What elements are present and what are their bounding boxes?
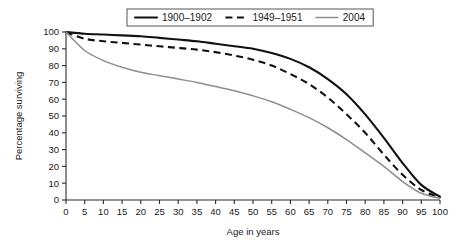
y-tick-label: 90 xyxy=(48,43,59,54)
x-tick-label: 30 xyxy=(173,206,184,217)
chart-series-lines xyxy=(66,32,440,198)
y-tick-label: 20 xyxy=(48,161,59,172)
x-tick-label: 20 xyxy=(136,206,147,217)
legend-item-label: 1949–1951 xyxy=(252,12,302,23)
x-tick-label: 65 xyxy=(304,206,315,217)
x-tick-label: 75 xyxy=(341,206,352,217)
chart-legend: 1900–19021949–19512004 xyxy=(127,9,373,26)
x-tick-label: 5 xyxy=(82,206,87,217)
y-axis-title: Percentage surviving xyxy=(13,72,24,161)
chart-axes xyxy=(66,32,440,200)
x-tick-label: 85 xyxy=(379,206,390,217)
survival-curve-chart: 1900–19021949–19512004 01020304050607080… xyxy=(0,0,465,242)
y-tick-label: 60 xyxy=(48,94,59,105)
x-tick-label: 35 xyxy=(192,206,203,217)
x-tick-label: 80 xyxy=(360,206,371,217)
y-tick-label: 0 xyxy=(54,194,59,205)
x-tick-label: 55 xyxy=(266,206,277,217)
x-tick-label: 70 xyxy=(323,206,334,217)
legend-item-label: 1900–1902 xyxy=(162,12,212,23)
legend-item-label: 2004 xyxy=(343,12,366,23)
y-tick-label: 40 xyxy=(48,127,59,138)
y-tick-label: 50 xyxy=(48,110,59,121)
x-tick-label: 40 xyxy=(210,206,221,217)
x-tick-label: 15 xyxy=(117,206,128,217)
x-tick-label: 100 xyxy=(432,206,448,217)
y-tick-label: 100 xyxy=(43,26,59,37)
x-axis-ticks: 0510152025303540455055606570758085909510… xyxy=(63,200,448,217)
series-line-1949-1951 xyxy=(66,32,440,197)
x-tick-label: 0 xyxy=(63,206,68,217)
chart-svg: 1900–19021949–19512004 01020304050607080… xyxy=(0,0,465,242)
y-tick-label: 70 xyxy=(48,77,59,88)
series-line-2004 xyxy=(66,32,440,198)
x-tick-label: 95 xyxy=(416,206,427,217)
x-tick-label: 90 xyxy=(397,206,408,217)
y-tick-label: 80 xyxy=(48,60,59,71)
y-axis-ticks: 0102030405060708090100 xyxy=(43,26,66,205)
x-tick-label: 50 xyxy=(248,206,259,217)
x-axis-title: Age in years xyxy=(227,226,280,237)
series-line-1900-1902 xyxy=(66,32,440,197)
x-tick-label: 10 xyxy=(98,206,109,217)
x-tick-label: 60 xyxy=(285,206,296,217)
x-tick-label: 25 xyxy=(154,206,165,217)
x-tick-label: 45 xyxy=(229,206,240,217)
y-tick-label: 10 xyxy=(48,178,59,189)
y-tick-label: 30 xyxy=(48,144,59,155)
